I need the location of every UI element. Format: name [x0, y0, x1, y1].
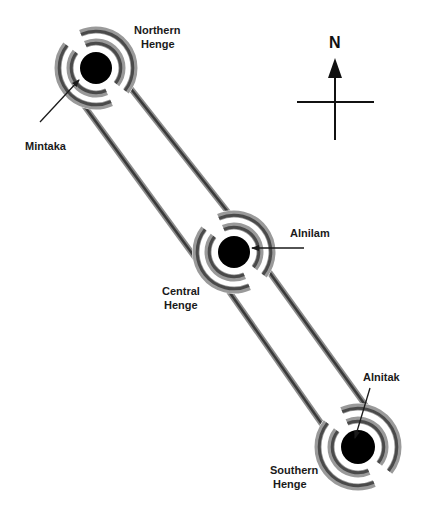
alnitak-star-disc	[341, 430, 375, 464]
central-henge-label-line1: Central	[162, 285, 200, 297]
northern-henge	[54, 26, 138, 110]
northern-henge-label-line1: Northern	[134, 24, 181, 36]
southern-henge-label-line1: Southern	[270, 464, 319, 476]
compass: N	[297, 34, 374, 140]
central-henge	[192, 210, 276, 294]
southern-henge-label-line2: Henge	[273, 478, 307, 490]
henges-layer	[54, 26, 402, 491]
mintaka-label: Mintaka	[25, 140, 67, 152]
compass-north-label: N	[329, 34, 341, 51]
henge-diagram: Northern Henge Mintaka Alnilam Central H…	[0, 0, 425, 516]
alnilam-star-disc	[218, 236, 250, 268]
mintaka-star-disc	[80, 52, 112, 84]
southern-henge	[314, 403, 402, 491]
north-arrow-icon	[297, 58, 374, 140]
alnilam-label: Alnilam	[290, 227, 330, 239]
central-henge-label-line2: Henge	[164, 299, 198, 311]
northern-henge-label-line2: Henge	[141, 38, 175, 50]
alnitak-label: Alnitak	[363, 371, 401, 383]
